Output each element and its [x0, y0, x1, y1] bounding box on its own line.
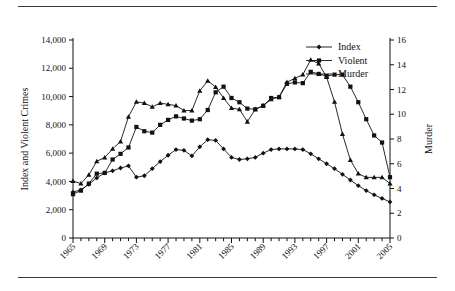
data-point-murder — [292, 76, 297, 81]
y2-axis-title: Murder — [423, 123, 434, 154]
data-point-violent — [301, 81, 305, 85]
y2-tick-label: 10 — [397, 109, 407, 119]
y-tick-label: 8,000 — [46, 120, 67, 130]
data-point-violent — [237, 100, 241, 104]
y-tick-label: 4,000 — [46, 177, 67, 187]
y-tick-label: 6,000 — [46, 148, 67, 158]
x-tick-label: 2005 — [375, 241, 395, 261]
data-point-murder — [332, 99, 337, 104]
data-point-violent — [214, 90, 218, 94]
data-point-index — [277, 147, 282, 152]
data-point-index — [324, 161, 329, 166]
data-point-murder — [356, 171, 361, 176]
data-point-violent — [198, 117, 202, 121]
data-point-violent — [293, 80, 297, 84]
data-point-index — [245, 156, 250, 161]
data-point-murder — [94, 159, 99, 164]
data-point-murder — [205, 78, 210, 83]
data-point-index — [253, 155, 258, 160]
data-point-murder — [158, 101, 163, 106]
data-point-violent — [71, 192, 75, 196]
data-point-violent — [332, 73, 336, 77]
data-point-violent — [372, 133, 376, 137]
data-point-murder — [118, 139, 123, 144]
data-point-violent — [206, 108, 210, 112]
x-tick-label: 1989 — [248, 241, 268, 261]
data-point-violent — [182, 116, 186, 120]
data-point-violent — [95, 172, 99, 176]
data-point-index — [380, 196, 385, 201]
y-tick-label: 14,000 — [41, 35, 66, 45]
data-point-murder — [134, 99, 139, 104]
y2-tick-label: 14 — [397, 60, 407, 70]
data-point-murder — [126, 114, 131, 119]
data-point-index — [293, 147, 298, 152]
x-tick-label: 1973 — [121, 241, 141, 261]
data-point-index — [372, 192, 377, 197]
data-point-violent — [364, 117, 368, 121]
series-line-index — [73, 140, 390, 202]
y-tick-label: 2,000 — [46, 205, 67, 215]
data-point-violent — [245, 106, 249, 110]
chart-legend: IndexViolentMurder — [306, 41, 369, 79]
data-point-violent — [190, 119, 194, 123]
data-point-murder — [86, 172, 91, 177]
data-point-violent — [126, 145, 130, 149]
axes-group: 02,0004,0006,0008,00010,00012,00014,0000… — [19, 35, 434, 261]
crime-trend-line-chart: 02,0004,0006,0008,00010,00012,00014,0000… — [0, 0, 455, 291]
data-point-murder — [308, 57, 313, 62]
y2-tick-label: 6 — [397, 159, 402, 169]
y2-tick-label: 2 — [397, 208, 402, 218]
y2-tick-label: 4 — [397, 184, 402, 194]
y-tick-label: 12,000 — [41, 63, 66, 73]
legend-label-violent: Violent — [338, 55, 368, 66]
data-point-violent — [221, 85, 225, 89]
x-tick-label: 2001 — [343, 241, 363, 261]
data-point-index — [118, 166, 123, 171]
data-point-index — [110, 168, 115, 173]
y-tick-label: 10,000 — [41, 92, 66, 102]
x-tick-label: 1969 — [89, 241, 109, 261]
data-point-violent — [142, 129, 146, 133]
y2-tick-label: 8 — [397, 134, 402, 144]
data-point-violent — [309, 70, 313, 74]
data-point-violent — [348, 85, 352, 89]
data-point-index — [364, 188, 369, 193]
y-axis-title: Index and Violent Crimes — [19, 87, 30, 190]
data-point-violent — [79, 189, 83, 193]
data-point-violent — [174, 114, 178, 118]
data-point-index — [308, 151, 313, 156]
data-point-index — [261, 151, 266, 156]
chart-plot-area: 02,0004,0006,0008,00010,00012,00014,0000… — [0, 0, 455, 291]
data-point-violent — [103, 171, 107, 175]
data-point-murder — [245, 119, 250, 124]
y-tick-label: 0 — [62, 233, 67, 243]
y2-tick-label: 16 — [397, 35, 407, 45]
data-point-violent — [380, 140, 384, 144]
data-point-index — [237, 157, 242, 162]
data-point-violent — [111, 157, 115, 161]
data-point-index — [300, 147, 305, 152]
data-point-violent — [229, 96, 233, 100]
figure-container: 02,0004,0006,0008,00010,00012,00014,0000… — [0, 0, 455, 291]
y2-tick-label: 0 — [397, 233, 402, 243]
data-point-violent — [158, 123, 162, 127]
x-tick-label: 1977 — [153, 241, 173, 261]
x-tick-label: 1985 — [216, 241, 236, 261]
data-point-violent — [150, 131, 154, 135]
x-tick-label: 1981 — [184, 241, 204, 261]
data-point-violent — [166, 118, 170, 122]
data-point-murder — [348, 157, 353, 162]
data-point-index — [285, 147, 290, 152]
legend-label-index: Index — [338, 41, 361, 52]
data-point-violent — [388, 175, 392, 179]
data-point-violent — [356, 100, 360, 104]
legend-marker-violent — [317, 58, 321, 62]
data-point-murder — [150, 104, 155, 109]
y2-tick-label: 12 — [397, 85, 406, 95]
legend-marker-index — [317, 45, 322, 50]
legend-label-murder: Murder — [338, 68, 369, 79]
x-tick-label: 1993 — [280, 241, 300, 261]
data-point-index — [388, 200, 393, 205]
x-tick-label: 1997 — [311, 241, 331, 261]
